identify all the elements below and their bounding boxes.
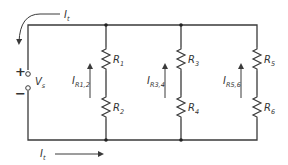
- it-bottom-label: It: [40, 148, 46, 162]
- r5-label: R5: [264, 54, 275, 68]
- voltage-source: + − Vs: [15, 64, 46, 101]
- r3-label: R3: [188, 54, 199, 68]
- resistor-r1: [102, 47, 110, 71]
- minus-sign: −: [15, 86, 26, 101]
- total-current-top-arrow-icon: [19, 14, 60, 42]
- it-top-label: It: [64, 9, 70, 23]
- i-r12-label: IR1,2: [72, 75, 90, 89]
- resistor-r2: [102, 95, 110, 119]
- plus-sign: +: [15, 64, 26, 79]
- i-r34-label: IR3,4: [147, 75, 165, 89]
- i-r56-label: IR5,6: [223, 75, 241, 89]
- r4-label: R4: [188, 102, 199, 116]
- resistor-r3: [177, 47, 185, 71]
- vs-label: Vs: [35, 76, 46, 90]
- r6-label: R6: [264, 102, 275, 116]
- resistor-r4: [177, 95, 185, 119]
- junction-dots: [104, 23, 183, 142]
- r1-label: R1: [113, 54, 124, 68]
- circuit-diagram: R1 R2 R3 R4 R5 R6 IR1,2 IR3,4 IR5,6 + − …: [0, 0, 288, 165]
- r2-label: R2: [113, 102, 124, 116]
